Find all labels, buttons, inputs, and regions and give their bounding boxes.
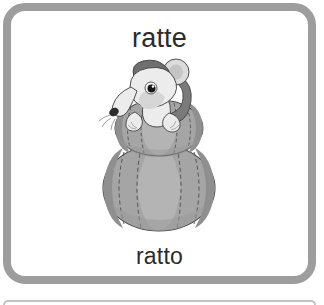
next-flashcard-edge[interactable] — [3, 300, 316, 305]
rat-on-pumpkins-illustration — [84, 55, 234, 235]
rat-eye — [145, 82, 157, 94]
word-bottom-italian: ratto — [11, 243, 308, 269]
word-top-german: ratte — [11, 23, 308, 53]
pumpkin-bottom — [103, 145, 215, 231]
flashcard-page: ratte — [0, 0, 324, 305]
flashcard[interactable]: ratte — [3, 3, 316, 284]
